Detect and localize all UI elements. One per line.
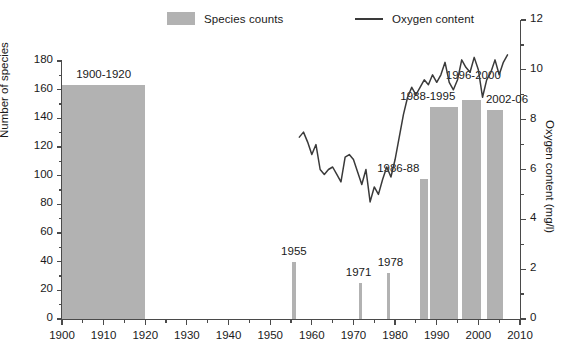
y-ticklabel-left-60: 60 xyxy=(17,225,53,237)
x-minortick-1915 xyxy=(124,320,125,323)
legend-label-oxygen-content: Oxygen content xyxy=(392,13,474,25)
chart-root: Species counts Oxygen content Number of … xyxy=(0,0,577,348)
bar-1988-1995 xyxy=(430,107,457,319)
chart-legend: Species counts Oxygen content xyxy=(0,0,577,34)
x-tick-1950 xyxy=(270,320,271,325)
y-ticklabel-right-10: 10 xyxy=(530,62,543,74)
y-tick-right-12 xyxy=(521,19,526,20)
bar-1971 xyxy=(359,283,362,319)
y-ticklabel-left-180: 180 xyxy=(17,53,53,65)
legend-line-oxygen-content xyxy=(355,12,383,25)
bar-1996-2000 xyxy=(462,100,481,319)
x-minortick-1955 xyxy=(290,320,291,323)
x-minortick-1925 xyxy=(165,320,166,323)
y-tick-right-4 xyxy=(521,219,526,220)
y-tick-right-10 xyxy=(521,69,526,70)
bar-label-1978: 1978 xyxy=(350,256,430,268)
x-minortick-1945 xyxy=(249,320,250,323)
y-ticklabel-right-4: 4 xyxy=(530,211,536,223)
y-tick-left-180 xyxy=(57,60,62,61)
x-tick-1910 xyxy=(103,320,104,325)
y-ticklabel-right-0: 0 xyxy=(530,311,536,323)
legend-item-species-counts: Species counts xyxy=(167,12,283,25)
x-minortick-1965 xyxy=(332,320,333,323)
x-tick-1930 xyxy=(186,320,187,325)
x-minortick-2005 xyxy=(499,320,500,323)
y-minortick-right-3 xyxy=(521,244,524,245)
y-ticklabel-right-8: 8 xyxy=(530,112,536,124)
y-axis-right-title: Oxygen content (mg/l) xyxy=(544,120,556,233)
x-tick-2010 xyxy=(519,320,520,325)
y-ticklabel-left-140: 140 xyxy=(17,110,53,122)
y-ticklabel-left-20: 20 xyxy=(17,282,53,294)
bar-label-1988-1995: 1988-1995 xyxy=(388,90,468,102)
bar-label-1900-1920: 1900-1920 xyxy=(64,68,144,80)
x-tick-1920 xyxy=(145,320,146,325)
legend-label-species-counts: Species counts xyxy=(204,13,283,25)
y-tick-right-0 xyxy=(521,318,526,319)
bar-1955 xyxy=(292,262,295,319)
y-tick-right-6 xyxy=(521,169,526,170)
x-tick-1980 xyxy=(394,320,395,325)
y-minortick-right-11 xyxy=(521,44,524,45)
x-tick-1990 xyxy=(436,320,437,325)
legend-item-oxygen-content: Oxygen content xyxy=(355,12,474,25)
bar-label-2002-06: 2002-06 xyxy=(467,93,547,105)
y-minortick-right-1 xyxy=(521,293,524,294)
bar-1986-88 xyxy=(420,179,428,319)
y-ticklabel-right-12: 12 xyxy=(530,12,543,24)
y-ticklabel-left-120: 120 xyxy=(17,139,53,151)
x-minortick-1935 xyxy=(207,320,208,323)
y-minortick-left-170 xyxy=(59,75,62,76)
bar-1900-1920 xyxy=(62,85,145,319)
y-minortick-right-5 xyxy=(521,194,524,195)
y-ticklabel-right-6: 6 xyxy=(530,162,536,174)
bar-label-1996-2000: 1996-2000 xyxy=(433,69,513,81)
bar-2002-06 xyxy=(487,110,504,319)
bar-label-1986-88: 1986-88 xyxy=(358,162,438,174)
y-axis-left-title: Number of species xyxy=(0,42,10,138)
y-ticklabel-left-160: 160 xyxy=(17,82,53,94)
bar-label-1955: 1955 xyxy=(254,245,334,257)
x-minortick-1995 xyxy=(457,320,458,323)
y-ticklabel-left-80: 80 xyxy=(17,196,53,208)
x-tick-1900 xyxy=(61,320,62,325)
y-tick-right-8 xyxy=(521,119,526,120)
legend-swatch-species-counts xyxy=(167,12,195,25)
x-tick-1960 xyxy=(311,320,312,325)
y-ticklabel-left-100: 100 xyxy=(17,168,53,180)
y-minortick-right-7 xyxy=(521,144,524,145)
x-minortick-1985 xyxy=(415,320,416,323)
bar-1978 xyxy=(387,273,390,319)
x-ticklabel-2010: 2010 xyxy=(494,329,546,341)
x-minortick-1905 xyxy=(82,320,83,323)
x-minortick-1975 xyxy=(374,320,375,323)
x-tick-1970 xyxy=(353,320,354,325)
y-ticklabel-right-2: 2 xyxy=(530,261,536,273)
y-ticklabel-left-0: 0 xyxy=(17,311,53,323)
y-ticklabel-left-40: 40 xyxy=(17,254,53,266)
x-tick-1940 xyxy=(228,320,229,325)
x-tick-2000 xyxy=(478,320,479,325)
y-tick-right-2 xyxy=(521,269,526,270)
